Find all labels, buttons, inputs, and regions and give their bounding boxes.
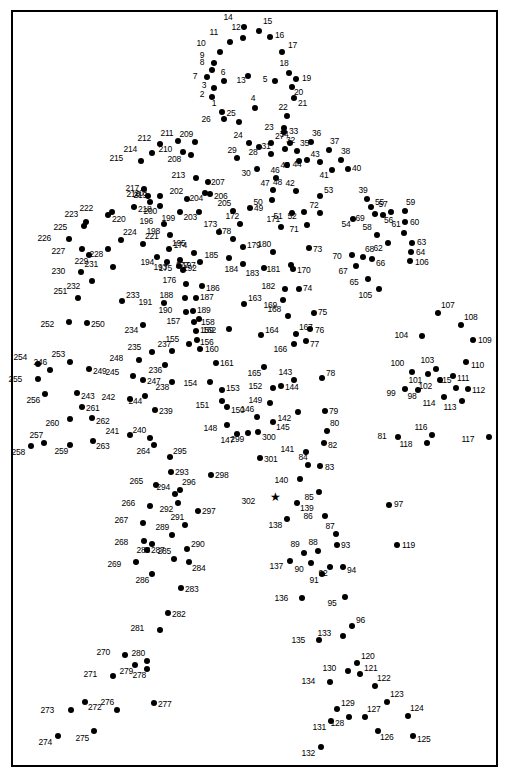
dot-number-label: 15 (263, 17, 272, 26)
puzzle-dot (338, 157, 344, 163)
dot-number-label: 193 (153, 263, 167, 272)
dot-number-label: 71 (290, 225, 299, 234)
dot-number-label: 76 (315, 326, 324, 335)
puzzle-dot (219, 109, 225, 115)
dot-number-label: 98 (408, 392, 417, 401)
dot-number-label: 114 (422, 399, 435, 408)
dot-number-label: 212 (137, 134, 151, 143)
dot-number-label: 132 (301, 749, 315, 758)
dot-number-label: 236 (148, 366, 162, 375)
dot-number-label: 243 (81, 392, 95, 401)
dot-number-label: 185 (204, 251, 218, 260)
puzzle-dot (357, 671, 363, 677)
puzzle-dot (86, 366, 92, 372)
dot-number-label: 136 (274, 594, 288, 603)
puzzle-dot (284, 162, 290, 168)
puzzle-dot (252, 105, 258, 111)
dot-number-label: 48 (273, 178, 282, 187)
dot-number-label: 161 (220, 359, 234, 368)
puzzle-dot (284, 113, 290, 119)
dot-number-label: 79 (329, 407, 338, 416)
puzzle-dot (368, 204, 374, 210)
dot-number-label: 111 (457, 374, 469, 383)
dot-number-label: 123 (390, 690, 404, 699)
puzzle-dot (388, 209, 394, 215)
dot-number-label: 9 (200, 51, 205, 60)
puzzle-dot (175, 500, 181, 506)
puzzle-dot (122, 652, 128, 658)
puzzle-dot (190, 308, 196, 314)
puzzle-dot (458, 322, 464, 328)
dot-number-label: 162 (202, 326, 216, 335)
dot-number-label: 293 (175, 468, 189, 477)
puzzle-dot (136, 357, 142, 363)
puzzle-dot (157, 627, 163, 633)
dot-number-label: 97 (394, 500, 403, 509)
puzzle-dot (425, 371, 431, 377)
dot-number-label: 171 (266, 215, 280, 224)
dot-number-label: 284 (192, 564, 206, 573)
puzzle-dot (66, 319, 72, 325)
dot-number-label: 208 (167, 155, 181, 164)
puzzle-dot (140, 377, 146, 383)
dot-number-label: 227 (51, 247, 65, 256)
dot-number-label: 41 (320, 171, 329, 180)
puzzle-dot (407, 258, 413, 264)
dot-number-label: 291 (170, 513, 184, 522)
puzzle-dot (402, 386, 408, 392)
dot-number-label: 75 (318, 308, 327, 317)
dot-number-label: 22 (279, 103, 288, 112)
dot-number-label: 46 (271, 166, 280, 175)
dot-number-label: 288 (136, 546, 150, 555)
puzzle-dot (287, 140, 293, 146)
dot-number-label: 126 (380, 733, 394, 742)
puzzle-dot (365, 276, 371, 282)
puzzle-dot (144, 658, 150, 664)
puzzle-dot (353, 263, 359, 269)
dot-number-label: 61 (392, 220, 401, 229)
dot-number-label: 82 (328, 441, 337, 450)
dot-number-label: 62 (374, 244, 383, 253)
dot-number-label: 69 (356, 214, 365, 223)
dot-number-label: 215 (109, 154, 123, 163)
dot-number-label: 65 (350, 278, 359, 287)
dot-number-label: 270 (96, 648, 110, 657)
puzzle-dot (459, 398, 465, 404)
puzzle-dot (342, 594, 348, 600)
puzzle-dot (180, 149, 186, 155)
dot-number-label: 26 (202, 115, 211, 124)
puzzle-dot (270, 187, 276, 193)
puzzle-dot (394, 542, 400, 548)
dot-number-label: 302 (241, 497, 255, 506)
puzzle-dot (234, 155, 240, 161)
puzzle-dot (213, 360, 219, 366)
puzzle-dot (317, 463, 323, 469)
dot-number-label: 135 (291, 636, 305, 645)
dot-number-label: 38 (341, 147, 350, 156)
dot-number-label: 178 (217, 227, 231, 236)
dot-number-label: 87 (326, 522, 335, 531)
puzzle-dot (151, 700, 157, 706)
dot-number-label: 150 (231, 406, 245, 415)
dot-number-label: 239 (159, 407, 173, 416)
puzzle-dot (91, 728, 97, 734)
dot-number-label: 250 (91, 320, 105, 329)
puzzle-dot (286, 70, 292, 76)
puzzle-dot (270, 249, 276, 255)
dot-number-label: 106 (415, 258, 429, 267)
puzzle-dot (182, 295, 188, 301)
dot-number-label: 104 (394, 331, 408, 340)
dot-number-label: 124 (410, 704, 424, 713)
dot-number-label: 300 (262, 433, 276, 442)
puzzle-dot (192, 139, 198, 145)
dot-number-label: 102 (418, 382, 432, 391)
dot-number-label: 53 (324, 186, 333, 195)
dot-number-label: 235 (127, 343, 141, 352)
dot-number-label: 39 (359, 186, 368, 195)
puzzle-dot (55, 733, 61, 739)
puzzle-dot (147, 199, 153, 205)
puzzle-dot (67, 359, 73, 365)
dot-number-label: 36 (312, 129, 321, 138)
puzzle-dot (419, 333, 425, 339)
puzzle-dot (306, 245, 312, 251)
